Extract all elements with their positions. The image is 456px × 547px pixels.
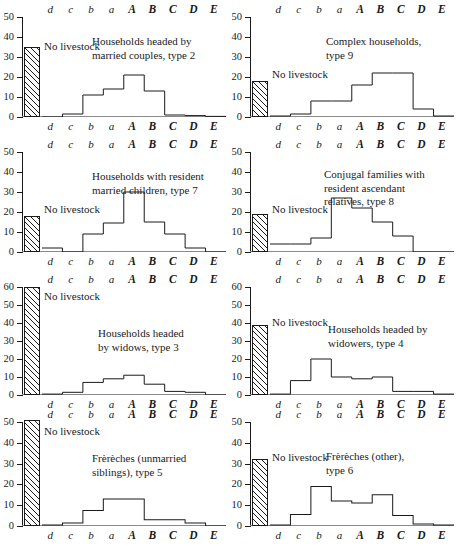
category-label-E: E (432, 407, 452, 422)
y-tick-label: 0 (9, 247, 14, 258)
y-tick (245, 305, 251, 306)
category-label-a: a (329, 137, 349, 152)
plot-area: 0102030405060No livestockHouseholds head… (228, 287, 456, 395)
y-tick-label: 10 (232, 227, 243, 238)
category-label-A: A (122, 407, 142, 422)
y-tick (17, 505, 23, 506)
category-label-B: B (142, 272, 162, 287)
category-label-b: b (309, 137, 329, 152)
y-tick-label: 20 (232, 479, 243, 490)
category-label-A: A (122, 119, 142, 133)
y-tick (17, 232, 23, 233)
y-tick-label: 20 (4, 479, 15, 490)
category-label-B: B (142, 2, 162, 17)
plot-area: 01020304050No livestockComplex household… (228, 17, 456, 117)
category-label-A: A (350, 137, 370, 152)
category-label-a: a (101, 272, 121, 287)
category-label-C: C (391, 407, 411, 422)
category-label-C: C (391, 137, 411, 152)
no-livestock-bar (252, 325, 268, 395)
no-livestock-bar (24, 420, 40, 526)
no-livestock-bar (24, 47, 40, 117)
y-tick (245, 443, 251, 444)
chart-title: Households headed by widows, type 3 (98, 327, 184, 354)
category-label-a: a (101, 407, 121, 422)
y-tick (245, 464, 251, 465)
y-tick (17, 57, 23, 58)
category-label-a: a (329, 272, 349, 287)
category-label-B: B (370, 254, 390, 268)
y-tick-label: 40 (4, 167, 15, 178)
y-tick (17, 17, 23, 18)
bottom-category-axis: dcbaABCDE (40, 254, 224, 268)
plot-area: 01020304050No livestockHouseholds headed… (0, 17, 228, 117)
y-tick-label: 40 (4, 32, 15, 43)
category-label-D: D (411, 2, 431, 17)
category-label-A: A (350, 254, 370, 268)
y-tick-label: 30 (232, 458, 243, 469)
category-label-A: A (350, 272, 370, 287)
y-tick (17, 212, 23, 213)
category-label-A: A (122, 272, 142, 287)
category-label-a: a (101, 528, 121, 542)
category-label-b: b (81, 528, 101, 542)
category-label-A: A (350, 2, 370, 17)
category-label-B: B (370, 2, 390, 17)
y-tick-label: 10 (4, 92, 15, 103)
category-label-D: D (183, 528, 203, 542)
category-label-E: E (204, 2, 224, 17)
y-tick-label: 30 (4, 336, 15, 347)
histogram-steps (42, 152, 226, 252)
y-axis-line (250, 152, 251, 252)
chart-panel-3: dcbaABCDE01020304050No livestockHousehol… (0, 135, 228, 270)
category-label-C: C (163, 407, 183, 422)
y-tick-label: 20 (4, 207, 15, 218)
category-label-C: C (391, 2, 411, 17)
category-label-c: c (60, 407, 80, 422)
y-tick (17, 77, 23, 78)
plot-area: 01020304050No livestockConjugal families… (228, 152, 456, 252)
category-label-D: D (411, 254, 431, 268)
category-label-B: B (370, 137, 390, 152)
category-label-d: d (40, 407, 60, 422)
axes: 01020304050No livestock (22, 152, 228, 252)
category-label-d: d (40, 528, 60, 542)
y-tick-label: 30 (232, 336, 243, 347)
y-tick (17, 287, 23, 288)
category-label-B: B (370, 528, 390, 542)
category-label-d: d (268, 528, 288, 542)
category-label-C: C (391, 528, 411, 542)
y-tick (17, 443, 23, 444)
y-tick (245, 192, 251, 193)
y-tick-label: 40 (232, 438, 243, 449)
chart-title: Households headed by widowers, type 4 (328, 323, 428, 350)
category-label-A: A (350, 119, 370, 133)
category-label-a: a (329, 528, 349, 542)
chart-panel-6: dcbaABCDE0102030405060No livestockHouseh… (228, 270, 456, 405)
y-tick (245, 17, 251, 18)
top-category-axis: dcbaABCDE (40, 137, 224, 152)
y-tick (17, 395, 23, 396)
chart-title: Conjugal families with resident ascendan… (324, 168, 425, 209)
category-label-b: b (81, 407, 101, 422)
top-category-axis: dcbaABCDE (268, 407, 452, 422)
category-label-E: E (432, 137, 452, 152)
category-label-A: A (122, 254, 142, 268)
category-label-E: E (432, 528, 452, 542)
category-label-A: A (122, 137, 142, 152)
y-tick (17, 117, 23, 118)
y-tick (245, 395, 251, 396)
no-livestock-bar (24, 216, 40, 252)
category-label-C: C (163, 2, 183, 17)
category-label-a: a (329, 407, 349, 422)
y-tick (245, 526, 251, 527)
category-label-d: d (40, 254, 60, 268)
category-label-E: E (432, 2, 452, 17)
y-tick-label: 40 (232, 318, 243, 329)
axes: 01020304050No livestock (250, 17, 456, 117)
category-label-d: d (268, 137, 288, 152)
plot-area: 01020304050No livestockFrèrèches (unmarr… (0, 422, 228, 526)
y-tick (245, 37, 251, 38)
category-label-A: A (122, 528, 142, 542)
y-tick (245, 505, 251, 506)
